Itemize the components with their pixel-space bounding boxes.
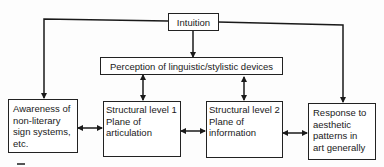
node-structural1-label: Structural level 1 Plane of articulation — [106, 104, 180, 139]
node-response: Response to aesthetic patterns in art ge… — [308, 103, 376, 160]
node-awareness-label: Awareness of non-literary sign systems, … — [13, 103, 77, 149]
node-perception: Perception of linguistic/stylistic devic… — [100, 57, 283, 75]
node-response-label: Response to aesthetic patterns in art ge… — [313, 107, 375, 153]
caption-fragment — [17, 163, 25, 165]
node-perception-label: Perception of linguistic/stylistic devic… — [101, 61, 282, 73]
node-awareness: Awareness of non-literary sign systems, … — [8, 99, 78, 153]
node-structural2: Structural level 2 Plane of information — [206, 101, 283, 158]
node-intuition: Intuition — [168, 13, 219, 31]
node-structural2-label: Structural level 2 Plane of information — [209, 104, 282, 139]
node-structural1: Structural level 1 Plane of articulation — [103, 101, 181, 157]
node-intuition-label: Intuition — [169, 17, 218, 29]
